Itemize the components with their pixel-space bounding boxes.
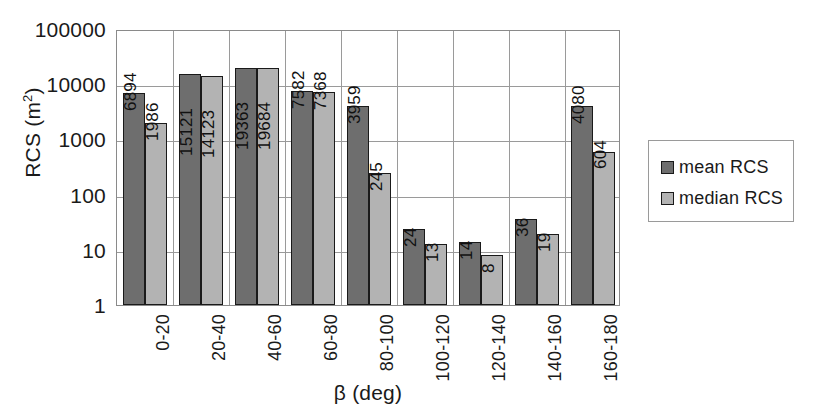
- bar-value-label: 14: [457, 240, 477, 259]
- bar-value-label: 7368: [311, 71, 331, 110]
- rcs-bar-chart: RCS (m2) 110100100010000100000 689419861…: [0, 0, 822, 420]
- x-tick-label: 80-100: [377, 314, 398, 371]
- legend-label: mean RCS: [679, 157, 769, 178]
- bar-mean-rcs[interactable]: [571, 106, 593, 305]
- bar-value-label: 19363: [233, 102, 253, 150]
- y-tick-label: 10000: [47, 73, 106, 97]
- x-axis-ticks: 0-2020-4040-6060-8080-100100-120120-1401…: [116, 306, 620, 386]
- plot-area: 6894198615121141231936319684758273683959…: [116, 30, 620, 306]
- bar-groups: 6894198615121141231936319684758273683959…: [117, 31, 619, 305]
- bar-value-label: 19684: [255, 102, 275, 150]
- bar-value-label: 7582: [289, 70, 309, 109]
- x-tick-label: 100-120: [433, 314, 454, 381]
- bar-group: 2413: [397, 31, 453, 305]
- y-tick-label: 100: [70, 184, 106, 208]
- bar-group: 75827368: [285, 31, 341, 305]
- bar-group: 3619: [509, 31, 565, 305]
- x-tick-label: 160-180: [601, 314, 622, 381]
- bar-group: 3959245: [341, 31, 397, 305]
- bar-mean-rcs[interactable]: [123, 93, 145, 305]
- bar-group: 68941986: [117, 31, 173, 305]
- x-tick-label: 120-140: [489, 314, 510, 381]
- bar-value-label: 19: [535, 233, 555, 252]
- bar-value-label: 4080: [569, 85, 589, 124]
- bar-group: 1512114123: [173, 31, 229, 305]
- bar-value-label: 24: [401, 227, 421, 246]
- bar-value-label: 36: [513, 218, 533, 237]
- legend-item[interactable]: mean RCS: [661, 157, 783, 178]
- y-tick-label: 1: [94, 294, 106, 318]
- legend-label: median RCS: [679, 188, 783, 209]
- bar-value-label: 245: [367, 162, 387, 191]
- bar-value-label: 13: [423, 242, 443, 261]
- x-tick-label: 40-60: [265, 314, 286, 361]
- bar-value-label: 1986: [143, 102, 163, 141]
- bar-mean-rcs[interactable]: [347, 106, 369, 305]
- x-tick-label: 20-40: [209, 314, 230, 361]
- bar-group: 4080604: [565, 31, 621, 305]
- bar-value-label: 8: [479, 263, 499, 273]
- bar-group: 1936319684: [229, 31, 285, 305]
- bar-group: 148: [453, 31, 509, 305]
- x-axis-title: β (deg): [116, 381, 620, 405]
- bar-value-label: 3959: [345, 86, 365, 125]
- bar-value-label: 6894: [121, 72, 141, 111]
- bar-median-rcs[interactable]: [369, 173, 391, 305]
- legend: mean RCSmedian RCS: [648, 140, 794, 222]
- y-axis-ticks: 110100100010000100000: [0, 30, 112, 306]
- x-tick-label: 0-20: [153, 314, 174, 351]
- bar-mean-rcs[interactable]: [291, 91, 313, 305]
- bar-value-label: 15121: [177, 108, 197, 156]
- bar-median-rcs[interactable]: [313, 92, 335, 305]
- y-tick-label: 100000: [35, 18, 106, 42]
- bar-median-rcs[interactable]: [593, 152, 615, 306]
- y-tick-label: 10: [82, 239, 106, 263]
- legend-item[interactable]: median RCS: [661, 188, 783, 209]
- bar-value-label: 604: [591, 141, 611, 170]
- bar-value-label: 14123: [199, 110, 219, 158]
- bar-median-rcs[interactable]: [145, 123, 167, 305]
- y-tick-label: 1000: [58, 128, 106, 152]
- legend-swatch-icon: [661, 192, 674, 205]
- legend-swatch-icon: [661, 161, 674, 174]
- x-tick-label: 60-80: [321, 314, 342, 361]
- x-tick-label: 140-160: [545, 314, 566, 381]
